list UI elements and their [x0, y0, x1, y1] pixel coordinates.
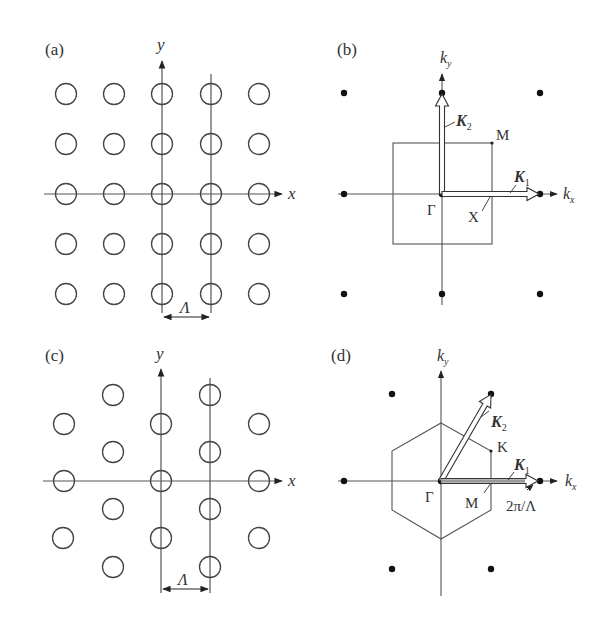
panel-b-label: (b) [337, 40, 357, 59]
lattice-constant-label: Λ [178, 299, 190, 316]
y-axis-label: y [154, 344, 164, 363]
m-point [490, 141, 493, 144]
ky-axis-label: ky [437, 347, 449, 367]
panel-b: (b) kx ky K2 M K1 Γ X [337, 40, 575, 305]
panel-a-label: (a) [45, 40, 64, 59]
k-point [489, 449, 492, 452]
m-point-label: M [465, 495, 478, 511]
figure-canvas: (a) x y Λ (b) kx ky [0, 0, 608, 626]
k2-label: K2 [490, 413, 507, 433]
ky-axis-label: ky [440, 49, 452, 69]
x-axis-label: x [287, 471, 296, 490]
k2-vector [435, 391, 496, 484]
m-leader [484, 483, 491, 493]
panel-c-label: (c) [45, 346, 64, 365]
k1-vector [442, 188, 539, 201]
k-point-label: K [497, 439, 508, 455]
k2-label: K2 [455, 112, 472, 132]
panel-d: (d) kx ky K2 K K1 Γ M [331, 346, 577, 596]
x-leader [482, 197, 490, 211]
m-label: M [496, 127, 509, 143]
lattice-constant-label: Λ [176, 571, 188, 588]
k2-leader [445, 122, 455, 127]
panel-a: (a) x y Λ [44, 35, 296, 317]
k1-label: K1 [513, 456, 530, 476]
gamma-label: Γ [427, 202, 436, 218]
panel-d-label: (d) [331, 346, 351, 365]
k2-vector [436, 94, 449, 194]
gamma-label: Γ [425, 489, 434, 505]
x-point-label: X [468, 209, 479, 225]
y-axis-label: y [155, 35, 165, 54]
x-axis-label: x [287, 184, 296, 203]
kx-axis-label: kx [565, 472, 577, 492]
kx-axis-label: kx [563, 185, 575, 205]
magnitude-label: 2π/Λ [506, 498, 536, 514]
panel-c: (c) x y Λ [43, 344, 296, 593]
